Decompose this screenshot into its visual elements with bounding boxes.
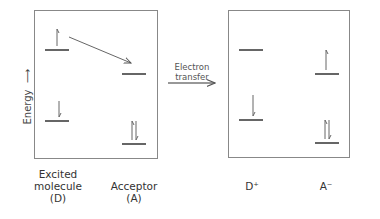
excited-molecule-line3: (D) [28, 192, 88, 204]
dplus-label: D⁺ [238, 180, 266, 192]
electron-transfer-label: Electron transfer [168, 62, 216, 82]
aminus-label: A⁻ [312, 180, 340, 192]
acceptor-line2: (A) [106, 192, 162, 204]
acceptor-line1: Acceptor [106, 180, 162, 192]
electron-transfer-line1: Electron [168, 62, 216, 72]
after-panel [229, 11, 350, 158]
excited-molecule-label: Excited molecule (D) [28, 168, 88, 204]
excited-molecule-line1: Excited [28, 168, 88, 180]
acceptor-label: Acceptor (A) [106, 180, 162, 204]
energy-axis-text: Energy [22, 89, 33, 124]
electron-transfer-arrow-icon [69, 37, 131, 63]
dplus-text: D⁺ [245, 180, 259, 192]
excited-molecule-line2: molecule [28, 180, 88, 192]
energy-axis-label: Energy ⟶ [22, 55, 33, 125]
energy-axis-arrow-icon: ⟶ [22, 69, 33, 83]
aminus-text: A⁻ [320, 180, 333, 192]
electron-transfer-line2: transfer [168, 72, 216, 82]
before-panel [35, 11, 158, 159]
